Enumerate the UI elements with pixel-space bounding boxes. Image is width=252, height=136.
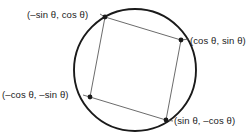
vertex-dot-right [179,38,184,43]
vertex-dot-bottom-left [88,95,93,100]
circle-outline [74,9,196,131]
vertex-dot-top-left [103,15,108,20]
vertex-label-bottom-left: (–cos θ, –sin θ) [2,89,69,100]
vertex-label-right: (cos θ, sin θ) [190,35,246,46]
vertex-label-top-left: (–sin θ, cos θ) [27,9,88,20]
vertex-label-bottom-right: (sin θ, –cos θ) [174,115,235,126]
vertex-dot-bottom-right [164,118,169,123]
inscribed-square-outline [90,17,181,120]
geometry-figure: (–sin θ, cos θ) (cos θ, sin θ) (–cos θ, … [0,0,252,136]
